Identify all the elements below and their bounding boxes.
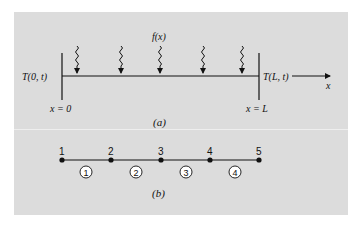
- heat-arrow-icon: [202, 46, 205, 73]
- node-dot: [158, 157, 163, 162]
- right-boundary-label: T(L, t): [263, 71, 289, 83]
- heat-arrow-icon: [76, 46, 79, 73]
- element-label: 1: [84, 168, 89, 178]
- node-dot: [207, 157, 212, 162]
- element-label: 2: [134, 168, 139, 178]
- source-label: f(x): [152, 31, 167, 43]
- left-position-label: x = 0: [49, 103, 71, 114]
- part-b: 1 2 3 4 5 1 2 3 4 (b): [59, 146, 262, 200]
- heat-arrow-icon: [241, 46, 244, 73]
- node-label: 5: [256, 146, 262, 157]
- element-markers: 1 2 3 4: [80, 166, 241, 178]
- heat-source-arrows: [76, 46, 244, 73]
- node-label: 3: [158, 146, 164, 157]
- figure-svg: f(x) T(0, t) T(L, t) x = 0 x = L x (a) 1…: [0, 0, 364, 227]
- element-label: 4: [233, 168, 238, 178]
- element-label: 3: [184, 168, 189, 178]
- node-dot: [108, 157, 113, 162]
- node-dot: [59, 157, 64, 162]
- caption-a: (a): [153, 116, 166, 129]
- node-label: 1: [59, 146, 65, 157]
- right-position-label: x = L: [245, 103, 268, 114]
- node-label: 4: [207, 146, 213, 157]
- axis-label: x: [325, 80, 331, 91]
- part-a: f(x) T(0, t) T(L, t) x = 0 x = L x (a): [22, 31, 331, 129]
- caption-b: (b): [152, 187, 165, 200]
- node-label: 2: [108, 146, 114, 157]
- heat-arrow-icon: [120, 46, 123, 73]
- heat-arrow-icon: [159, 46, 162, 73]
- node-dot: [256, 157, 261, 162]
- left-boundary-label: T(0, t): [22, 71, 48, 83]
